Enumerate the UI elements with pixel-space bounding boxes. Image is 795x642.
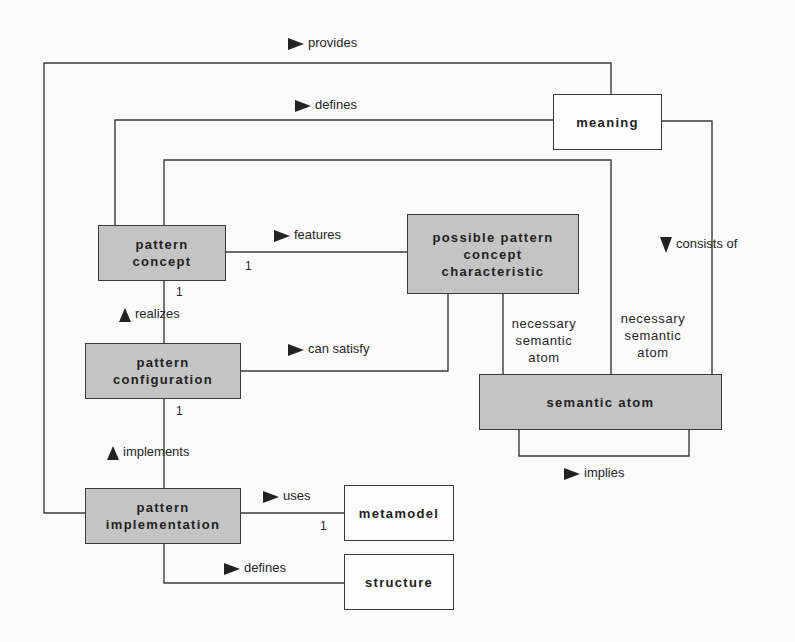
implies-label: implies xyxy=(584,465,624,480)
semantic-atom-box[interactable]: semantic atom xyxy=(479,374,722,430)
defines-meaning-line xyxy=(115,120,553,225)
arrow-right-icon xyxy=(288,344,304,356)
arrow-right-icon xyxy=(288,38,304,50)
defines-meaning-relation: defines xyxy=(295,97,357,112)
arrow-right-icon xyxy=(564,468,580,480)
features-relation: features xyxy=(274,227,341,242)
possible-characteristic-label: possible pattern concept characteristic xyxy=(432,229,553,280)
implements-label: implements xyxy=(123,444,189,459)
consists-of-label: consists of xyxy=(676,236,737,251)
implements-relation: implements xyxy=(107,444,189,460)
defines-structure-relation: defines xyxy=(224,560,286,575)
structure-label: structure xyxy=(365,574,433,591)
pattern-configuration-label: pattern configuration xyxy=(113,354,213,388)
necessary-atom-role-2: necessary semantic atom xyxy=(615,310,691,361)
realizes-relation: realizes xyxy=(119,306,180,322)
uses-multiplicity: 1 xyxy=(320,519,327,533)
features-multiplicity: 1 xyxy=(245,259,252,273)
pattern-implementation-label: pattern implementation xyxy=(106,499,220,533)
structure-box[interactable]: structure xyxy=(344,554,454,610)
possible-characteristic-box[interactable]: possible pattern concept characteristic xyxy=(407,214,579,294)
configuration-bottom-multiplicity: 1 xyxy=(176,404,183,418)
uses-label: uses xyxy=(283,488,310,503)
pattern-configuration-box[interactable]: pattern configuration xyxy=(85,343,241,399)
necessary-atom-role-1: necessary semantic atom xyxy=(506,315,582,366)
uses-relation: uses xyxy=(263,488,310,503)
implies-line xyxy=(519,430,689,456)
metamodel-label: metamodel xyxy=(359,505,439,522)
consists-of-relation: consists of xyxy=(660,236,737,253)
provides-label: provides xyxy=(308,35,357,50)
diagram-canvas: meaning pattern concept possible pattern… xyxy=(0,0,795,642)
metamodel-box[interactable]: metamodel xyxy=(344,485,454,541)
provides-relation: provides xyxy=(288,35,357,50)
realizes-label: realizes xyxy=(135,306,180,321)
arrow-right-icon xyxy=(224,563,240,575)
defines-meaning-label: defines xyxy=(315,97,357,112)
can-satisfy-label: can satisfy xyxy=(308,341,369,356)
implies-relation: implies xyxy=(564,465,624,480)
arrow-right-icon xyxy=(263,491,279,503)
arrow-up-icon xyxy=(107,446,119,460)
can-satisfy-line xyxy=(241,293,448,371)
concept-bottom-multiplicity: 1 xyxy=(176,285,183,299)
features-label: features xyxy=(294,227,341,242)
arrow-right-icon xyxy=(295,100,311,112)
pattern-implementation-box[interactable]: pattern implementation xyxy=(85,488,241,544)
pattern-concept-label: pattern concept xyxy=(133,236,192,270)
arrow-down-icon xyxy=(660,237,672,253)
arrow-right-icon xyxy=(274,230,290,242)
defines-structure-label: defines xyxy=(244,560,286,575)
semantic-atom-label: semantic atom xyxy=(547,394,655,411)
can-satisfy-relation: can satisfy xyxy=(288,341,369,356)
meaning-box[interactable]: meaning xyxy=(553,94,662,150)
meaning-label: meaning xyxy=(576,114,639,131)
pattern-concept-box[interactable]: pattern concept xyxy=(98,225,226,281)
arrow-up-icon xyxy=(119,308,131,322)
